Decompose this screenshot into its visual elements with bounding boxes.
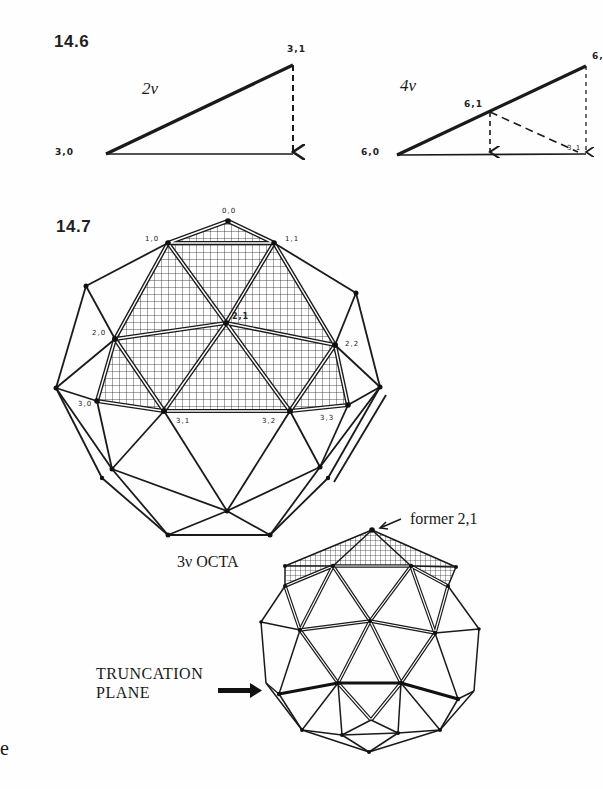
- node-label-2-2: 2,2: [345, 340, 359, 348]
- node-label-0-0: 0,0: [222, 207, 236, 215]
- triangle-4v: [397, 66, 586, 155]
- node-label-3-1: 3,1: [176, 417, 190, 425]
- octa-dome-3v: [54, 218, 387, 537]
- former-2-1-annotation: former 2,1: [410, 510, 478, 528]
- point-label-3-1: 3,1: [287, 44, 306, 54]
- truncation-label-line1: TRUNCATION: [96, 664, 203, 683]
- dome-caption-3v-octa: 3ν OCTA: [177, 553, 239, 571]
- node-label-1-1: 1,1: [285, 235, 299, 243]
- book-page: 14.6 2ν 3,0 3,1 4ν 6,0 6,1 6, 3,1 14.7 0…: [0, 0, 603, 789]
- point-label-6-1: 6,1: [464, 99, 483, 109]
- point-label-6-cut: 6,: [592, 51, 603, 61]
- point-label-6-0: 6,0: [361, 147, 380, 157]
- frequency-label-2v: 2ν: [142, 79, 158, 99]
- pointer-arrow: [380, 519, 401, 529]
- point-label-3-0: 3,0: [55, 147, 74, 157]
- truncation-plane-label: TRUNCATION PLANE: [96, 664, 203, 702]
- figure-number-14-6: 14.6: [54, 32, 89, 52]
- node-label-3-3: 3,3: [320, 414, 334, 422]
- node-label-2-1: 2,1: [232, 312, 249, 321]
- frequency-label-4v: 4ν: [400, 76, 416, 96]
- figure-number-14-7: 14.7: [56, 217, 91, 237]
- truncation-label-line2: PLANE: [96, 683, 203, 702]
- node-label-2-0: 2,0: [92, 329, 106, 337]
- triangle-2v: [106, 65, 293, 154]
- truncation-arrow: [218, 683, 262, 698]
- geodesic-diagrams: [0, 0, 603, 789]
- truncation-plane-line: [279, 683, 458, 699]
- node-label-1-0: 1,0: [145, 235, 159, 243]
- node-label-3-2: 3,2: [262, 417, 276, 425]
- node-label-3-0: 3,0: [78, 400, 92, 408]
- truncated-dome: [259, 527, 481, 754]
- margin-text-fragment: e: [0, 737, 9, 760]
- point-label-foot: 3,1: [567, 144, 581, 152]
